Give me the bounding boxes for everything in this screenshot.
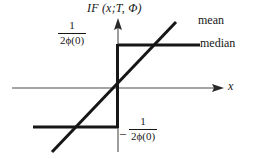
- legend-label-median: median: [200, 37, 235, 49]
- lower-tick-denominator: 2ϕ(0): [129, 131, 157, 143]
- upper-tick-numerator: 1: [58, 20, 86, 32]
- influence-function-figure: IF (x;T, Φ) 1 2ϕ(0) – 1 2ϕ(0) mean media…: [0, 0, 253, 159]
- upper-tick-denominator: 2ϕ(0): [58, 35, 86, 47]
- lower-tick-numerator: 1: [129, 116, 157, 128]
- upper-tick-value: 1 2ϕ(0): [58, 20, 86, 46]
- x-axis-label: x: [228, 80, 233, 92]
- legend-label-mean: mean: [198, 14, 224, 26]
- lower-tick-minus-sign: –: [120, 126, 126, 141]
- lower-tick-value: 1 2ϕ(0): [129, 116, 157, 142]
- axis-title: IF (x;T, Φ): [87, 2, 142, 14]
